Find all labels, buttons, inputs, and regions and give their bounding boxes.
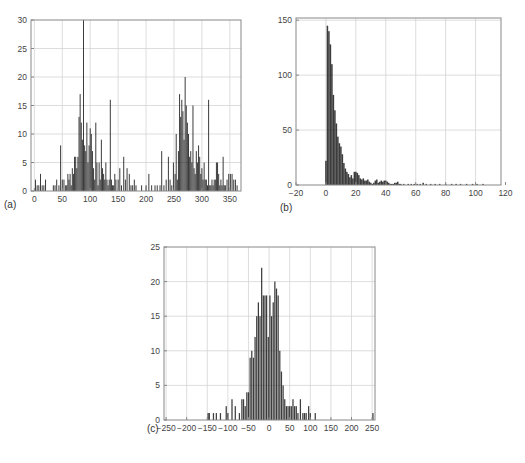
y-tick-label: 100 — [278, 70, 292, 80]
histogram-bar — [200, 174, 201, 191]
histogram-bar — [337, 137, 338, 185]
y-tick-label: 150 — [278, 15, 292, 25]
histogram-bar — [213, 413, 214, 420]
histogram-bar — [209, 185, 210, 191]
histogram-bar — [134, 180, 135, 191]
histogram-bar — [213, 185, 214, 191]
histogram-bar — [224, 185, 225, 191]
x-tick-label: 80 — [441, 188, 451, 198]
y-tick-label: 20 — [151, 277, 161, 287]
histogram-bar — [276, 289, 277, 420]
histogram-bar — [327, 26, 328, 185]
histogram-bar — [82, 140, 83, 191]
histogram-bar — [235, 406, 236, 420]
histogram-bar — [184, 140, 185, 191]
histogram-bar — [100, 180, 101, 191]
histogram-bar — [235, 180, 236, 191]
histogram-bar — [227, 180, 228, 191]
histogram-a: 050100150200250300350051015202530 — [18, 15, 241, 204]
x-tick-label: 100 — [468, 188, 482, 198]
histogram-bar — [261, 268, 262, 420]
histogram-bar — [180, 117, 181, 191]
histogram-bar — [300, 399, 301, 420]
histogram-bar — [339, 143, 340, 185]
histogram-bar — [38, 185, 39, 191]
histogram-bar — [45, 180, 46, 191]
histogram-bar — [291, 406, 292, 420]
histogram-bar — [70, 174, 71, 191]
histogram-bar — [294, 406, 295, 420]
histogram-bar — [92, 151, 93, 191]
histogram-bar — [231, 399, 232, 420]
x-tick-label: 200 — [344, 423, 358, 433]
y-tick-label: 10 — [18, 129, 28, 139]
histogram-bar — [198, 145, 199, 191]
histogram-bar — [264, 295, 265, 420]
histogram-bar — [226, 406, 227, 420]
histogram-bar — [364, 181, 365, 185]
y-tick-label: 30 — [18, 15, 28, 25]
histogram-bar — [132, 185, 133, 191]
histogram-bar — [237, 185, 238, 191]
histogram-bar — [250, 358, 251, 420]
y-tick-label: 15 — [18, 101, 28, 111]
x-tick-label: 150 — [324, 423, 338, 433]
histogram-bar — [119, 168, 120, 191]
histogram-bar — [357, 173, 358, 185]
histogram-bar — [336, 123, 337, 185]
histogram-bar — [306, 413, 307, 420]
histogram-bar — [330, 44, 331, 185]
histogram-bar — [106, 180, 107, 191]
histogram-bar — [215, 180, 216, 191]
panel-label-a: (a) — [4, 199, 16, 210]
histogram-bar — [98, 185, 99, 191]
histogram-bar — [218, 174, 219, 191]
histogram-bar — [58, 185, 59, 191]
histogram-bar — [75, 157, 76, 191]
x-tick-label: 50 — [285, 423, 295, 433]
histogram-bar — [196, 151, 197, 191]
histogram-bar — [43, 185, 44, 191]
x-tick-label: 100 — [83, 194, 97, 204]
histogram-bar — [173, 163, 174, 192]
x-tick-label: −100 — [218, 423, 237, 433]
histogram-bar — [99, 163, 100, 192]
x-tick-label: −200 — [177, 423, 196, 433]
histogram-bar — [115, 180, 116, 191]
histogram-bar — [157, 185, 158, 191]
histogram-bar — [223, 157, 224, 191]
histogram-bar — [251, 351, 252, 420]
histogram-bar — [328, 31, 329, 185]
histogram-bar — [384, 181, 385, 185]
histogram-bar — [354, 172, 355, 185]
histogram-bar — [81, 123, 82, 191]
y-tick-label: 25 — [151, 242, 161, 252]
y-tick-label: 15 — [151, 311, 161, 321]
histogram-bar — [191, 163, 192, 192]
histogram-bar — [207, 185, 208, 191]
histogram-bar — [279, 351, 280, 420]
histogram-bar — [367, 180, 368, 185]
y-tick-label: 5 — [155, 380, 160, 390]
histogram-bar — [331, 64, 332, 185]
y-tick-label: 10 — [151, 346, 161, 356]
histogram-bar — [141, 185, 142, 191]
histogram-bar — [170, 180, 171, 191]
histogram-bar — [284, 399, 285, 420]
histogram-bar — [216, 163, 217, 192]
x-tick-label: 0 — [324, 188, 329, 198]
histogram-bar — [245, 406, 246, 420]
histogram-bar — [256, 316, 257, 420]
histogram-bar — [239, 413, 240, 420]
histogram-bar — [171, 185, 172, 191]
histogram-bar — [243, 399, 244, 420]
histogram-bar — [352, 178, 353, 185]
histogram-bar — [206, 180, 207, 191]
panel-label-c: (c) — [147, 423, 159, 434]
histogram-bar — [76, 168, 77, 191]
histogram-bar — [109, 180, 110, 191]
x-tick-label: 20 — [351, 188, 361, 198]
y-tick-label: 0 — [22, 186, 27, 196]
histogram-bar — [176, 134, 177, 191]
histogram-bar — [83, 20, 84, 191]
